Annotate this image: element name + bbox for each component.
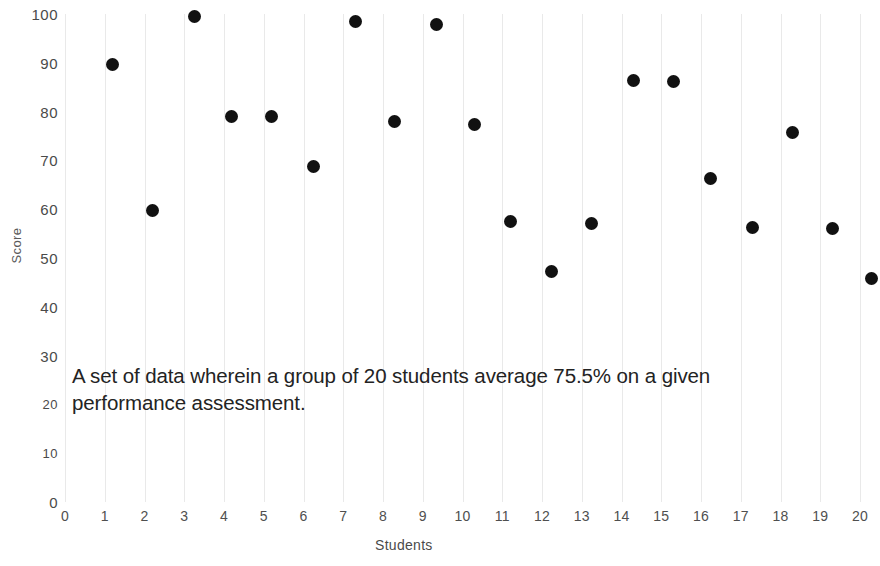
gridline xyxy=(820,14,821,502)
x-axis-tick-label: 18 xyxy=(761,508,801,524)
gridline xyxy=(542,14,543,502)
x-axis-tick-label: 5 xyxy=(244,508,284,524)
data-point xyxy=(786,126,799,139)
y-axis-tick-label: 20 xyxy=(0,398,58,411)
gridline xyxy=(145,14,146,502)
gridline xyxy=(701,14,702,502)
y-axis-title: Score xyxy=(9,216,24,276)
data-point xyxy=(627,74,640,87)
y-axis-tick-label: 30 xyxy=(0,348,58,363)
x-axis-tick-label: 3 xyxy=(164,508,204,524)
gridline xyxy=(423,14,424,502)
x-axis-tick-label: 17 xyxy=(721,508,761,524)
gridline xyxy=(264,14,265,502)
gridline xyxy=(105,14,106,502)
x-axis-tick-labels: 01234567891011121314151617181920 xyxy=(65,508,860,538)
y-axis-tick-label: 60 xyxy=(0,202,58,217)
data-point xyxy=(746,221,759,234)
gridline xyxy=(781,14,782,502)
data-point xyxy=(146,204,159,217)
y-axis-tick-label: 40 xyxy=(0,299,58,314)
plot-area xyxy=(65,14,860,502)
data-point xyxy=(826,222,839,235)
data-point xyxy=(388,115,401,128)
y-axis-tick-label: 100 xyxy=(0,7,58,22)
x-axis-tick-label: 16 xyxy=(681,508,721,524)
x-axis-tick-label: 7 xyxy=(323,508,363,524)
y-axis-tick-label: 80 xyxy=(0,104,58,119)
x-axis-tick-label: 8 xyxy=(363,508,403,524)
x-axis-tick-label: 11 xyxy=(482,508,522,524)
data-point xyxy=(430,18,443,31)
gridline xyxy=(661,14,662,502)
data-point xyxy=(468,118,481,131)
gridline xyxy=(304,14,305,502)
gridline xyxy=(860,14,861,502)
y-axis-tick-label: 10 xyxy=(0,447,58,460)
gridline xyxy=(502,14,503,502)
data-point xyxy=(704,172,717,185)
gridline xyxy=(184,14,185,502)
data-point xyxy=(865,272,878,285)
y-axis-tick-label: 90 xyxy=(0,55,58,70)
data-point xyxy=(307,160,320,173)
gridline xyxy=(383,14,384,502)
x-axis-tick-label: 9 xyxy=(403,508,443,524)
x-axis-tick-label: 15 xyxy=(641,508,681,524)
x-axis-title: Students xyxy=(375,537,433,553)
chart-annotation-caption: A set of data wherein a group of 20 stud… xyxy=(72,362,812,416)
data-point xyxy=(585,217,598,230)
data-point xyxy=(545,265,558,278)
gridline xyxy=(582,14,583,502)
x-axis-tick-label: 12 xyxy=(522,508,562,524)
data-point xyxy=(188,10,201,23)
data-point xyxy=(225,110,238,123)
gridline xyxy=(224,14,225,502)
gridline xyxy=(622,14,623,502)
gridline xyxy=(343,14,344,502)
x-axis-tick-label: 4 xyxy=(204,508,244,524)
x-axis-tick-label: 20 xyxy=(840,508,880,524)
x-axis-tick-label: 19 xyxy=(800,508,840,524)
x-axis-tick-label: 13 xyxy=(562,508,602,524)
gridline xyxy=(741,14,742,502)
gridline xyxy=(463,14,464,502)
x-axis-tick-label: 14 xyxy=(602,508,642,524)
data-point xyxy=(106,58,119,71)
data-point xyxy=(504,215,517,228)
x-axis-tick-label: 6 xyxy=(284,508,324,524)
x-axis-tick-label: 10 xyxy=(443,508,483,524)
gridline xyxy=(65,14,66,502)
y-axis-tick-label: 70 xyxy=(0,153,58,168)
data-point xyxy=(667,75,680,88)
data-point xyxy=(349,15,362,28)
data-point xyxy=(265,110,278,123)
x-axis-tick-label: 1 xyxy=(85,508,125,524)
x-axis-tick-label: 2 xyxy=(125,508,165,524)
x-axis-tick-label: 0 xyxy=(45,508,85,524)
